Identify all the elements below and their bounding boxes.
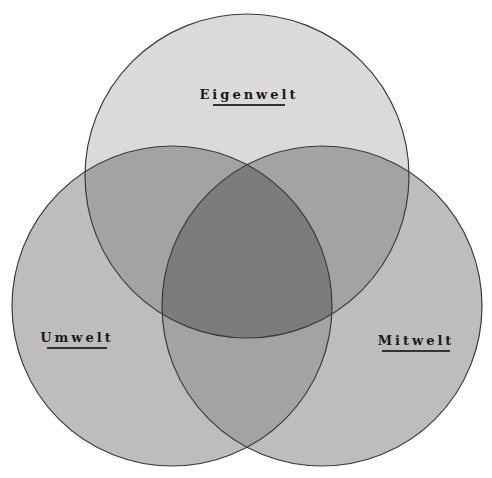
underline <box>382 350 449 352</box>
label-eigenwelt: Eigenwelt <box>197 87 301 106</box>
label-text-umwelt: Umwelt <box>40 330 114 345</box>
underline <box>47 347 107 349</box>
venn-diagram <box>0 0 492 478</box>
underline <box>213 104 286 106</box>
label-text-eigenwelt: Eigenwelt <box>199 87 298 102</box>
label-mitwelt: Mitwelt <box>368 333 464 352</box>
label-umwelt: Umwelt <box>34 330 120 349</box>
label-text-mitwelt: Mitwelt <box>378 333 455 348</box>
